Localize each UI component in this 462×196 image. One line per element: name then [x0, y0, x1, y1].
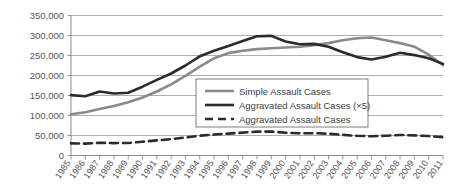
legend-label: Aggravated Assault Cases (×5) [239, 100, 370, 111]
y-axis-tick-label: 50,000 [35, 130, 64, 141]
y-axis-tick-label: 200,000 [30, 70, 64, 81]
legend-label: Aggravated Assault Cases [239, 114, 351, 125]
series-line [71, 132, 443, 144]
y-axis-tick-label: 100,000 [30, 110, 64, 121]
y-axis-tick-labels: 050,000100,000150,000200,000250,000300,0… [30, 10, 64, 161]
y-axis-tick-label: 150,000 [30, 90, 64, 101]
y-axis [68, 16, 72, 156]
x-axis-tick-label: 2010 [411, 158, 431, 180]
assault-cases-line-chart: 050,000100,000150,000200,000250,000300,0… [0, 0, 462, 196]
x-axis [71, 156, 443, 160]
x-axis-tick-label: 2011 [425, 158, 444, 180]
y-axis-tick-label: 350,000 [30, 10, 64, 21]
x-axis-tick-labels: 1985198619871988198919901991199219931994… [53, 158, 445, 180]
chart-canvas: 050,000100,000150,000200,000250,000300,0… [0, 0, 462, 196]
chart-legend: Simple Assault CasesAggravated Assault C… [196, 79, 370, 127]
legend-label: Simple Assault Cases [239, 86, 331, 97]
y-axis-tick-label: 250,000 [30, 50, 64, 61]
y-axis-tick-label: 300,000 [30, 30, 64, 41]
